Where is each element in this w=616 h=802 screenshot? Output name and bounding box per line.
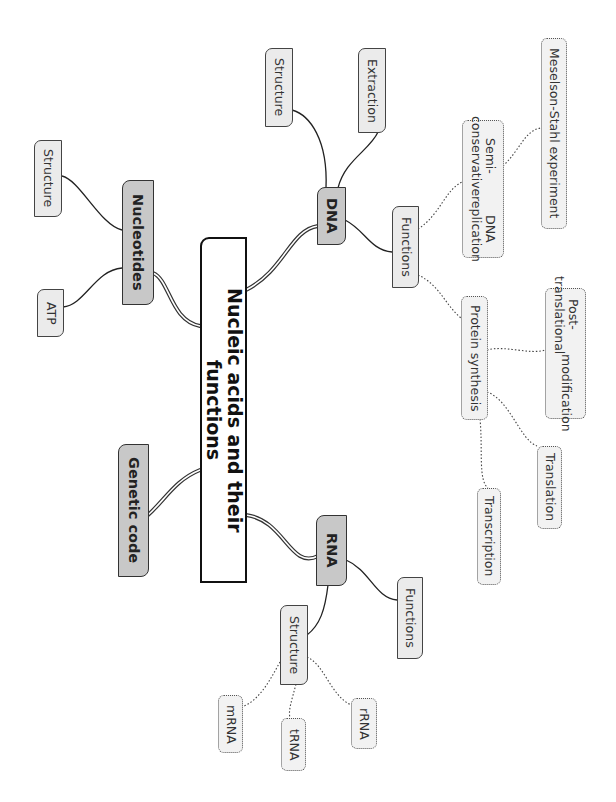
- leaf-mrna[interactable]: mRNA: [218, 695, 243, 753]
- topic-dna[interactable]: DNA: [317, 187, 346, 245]
- subtopic-atp[interactable]: ATP: [37, 289, 64, 337]
- topic-nucleotides[interactable]: Nucleotides: [122, 180, 154, 305]
- topic-dna-label: DNA: [323, 198, 340, 233]
- leaf-trna-label: tRNA: [286, 729, 300, 761]
- subtopic-nucleotides-structure[interactable]: Structure: [34, 140, 62, 217]
- subtopic-dna-functions[interactable]: Functions: [392, 206, 419, 288]
- leaf-trna[interactable]: tRNA: [281, 718, 306, 771]
- leaf-protein-synthesis-label: Protein synthesis: [467, 305, 481, 412]
- subtopic-dna-extraction-label: Extraction: [365, 59, 379, 123]
- leaf-translation-label: Translation: [542, 453, 556, 521]
- topic-genetic-code-label: Genetic code: [125, 457, 142, 563]
- leaf-semi-conservative-replication[interactable]: Semi-conservative DNA replication: [462, 120, 504, 258]
- leaf-mrna-label: mRNA: [223, 705, 237, 744]
- leaf-transcription[interactable]: Transcription: [477, 488, 501, 585]
- leaf-rrna-label: rRNA: [357, 708, 371, 740]
- mind-map-canvas: Nucleic acids and their functions DNA St…: [0, 0, 616, 802]
- connector-lines: [0, 0, 616, 802]
- leaf-post-translational-line1: Post-translational: [551, 276, 580, 354]
- subtopic-rna-functions-label: Functions: [403, 588, 417, 648]
- topic-rna-label: RNA: [323, 533, 340, 568]
- central-topic-label: Nucleic acids and their functions: [202, 239, 246, 581]
- leaf-meselson-stahl[interactable]: Meselson-Stahl experiment: [541, 38, 567, 229]
- subtopic-rna-structure[interactable]: Structure: [280, 605, 308, 685]
- leaf-post-translational[interactable]: Post-translational modification: [545, 288, 586, 419]
- leaf-rrna[interactable]: rRNA: [351, 698, 377, 749]
- leaf-protein-synthesis[interactable]: Protein synthesis: [461, 296, 488, 420]
- subtopic-dna-structure[interactable]: Structure: [265, 48, 293, 127]
- leaf-replication-line2: DNA replication: [469, 196, 498, 262]
- leaf-translation[interactable]: Translation: [537, 446, 562, 529]
- subtopic-dna-structure-label: Structure: [272, 58, 286, 116]
- topic-rna[interactable]: RNA: [316, 515, 347, 586]
- leaf-replication-line1: Semi-conservative: [469, 116, 498, 196]
- subtopic-rna-functions[interactable]: Functions: [397, 577, 423, 659]
- leaf-meselson-stahl-label: Meselson-Stahl experiment: [547, 48, 561, 218]
- topic-genetic-code[interactable]: Genetic code: [118, 444, 149, 577]
- subtopic-atp-label: ATP: [43, 302, 57, 325]
- subtopic-dna-extraction[interactable]: Extraction: [358, 48, 386, 133]
- leaf-transcription-label: Transcription: [482, 496, 496, 576]
- leaf-post-translational-line2: modification: [558, 354, 572, 432]
- subtopic-dna-functions-label: Functions: [398, 217, 412, 277]
- central-topic[interactable]: Nucleic acids and their functions: [200, 237, 247, 583]
- subtopic-rna-structure-label: Structure: [287, 616, 301, 674]
- topic-nucleotides-label: Nucleotides: [130, 194, 147, 291]
- subtopic-nucleotides-structure-label: Structure: [41, 149, 55, 207]
